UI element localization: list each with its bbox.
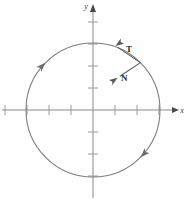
tangent-vector-label: T: [126, 44, 132, 54]
y-axis-label: y: [83, 2, 88, 11]
x-axis-label: x: [179, 106, 184, 115]
axes-group: x y: [2, 2, 184, 198]
normal-vector-arrowhead-icon: [109, 75, 120, 85]
x-axis-arrowhead-icon: [172, 107, 179, 113]
vectors-group: T N: [109, 38, 141, 85]
vector-diagram-figure: x y T N: [0, 0, 189, 204]
normal-vector-label: N: [121, 73, 128, 83]
y-axis-arrowhead-icon: [90, 4, 96, 12]
diagram-canvas: x y T N: [0, 0, 189, 204]
